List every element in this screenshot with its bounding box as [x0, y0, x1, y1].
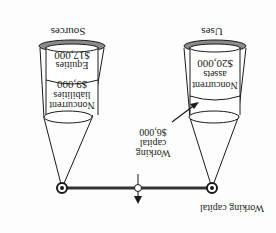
equities-value: $17,000	[54, 50, 90, 62]
uses-title: Uses	[201, 26, 222, 38]
callout-value: $6,000	[139, 127, 167, 138]
sources-title: Sources	[51, 26, 86, 38]
noncurrent-assets-value: $20,000	[197, 58, 233, 70]
diagram-canvas: Sources Uses Equities $17,000 Noncurrent…	[0, 0, 276, 233]
callout-line2: capital	[139, 138, 166, 149]
noncurrent-liabilities-value: $9,000	[56, 79, 87, 91]
beam	[57, 174, 217, 204]
beam-label: Working capital	[200, 203, 264, 214]
noncurrent-assets-label-1: Noncurrent	[192, 80, 238, 91]
fulcrum-icon	[135, 185, 142, 192]
balance-diagram: Sources Uses Equities $17,000 Noncurrent…	[0, 0, 276, 233]
